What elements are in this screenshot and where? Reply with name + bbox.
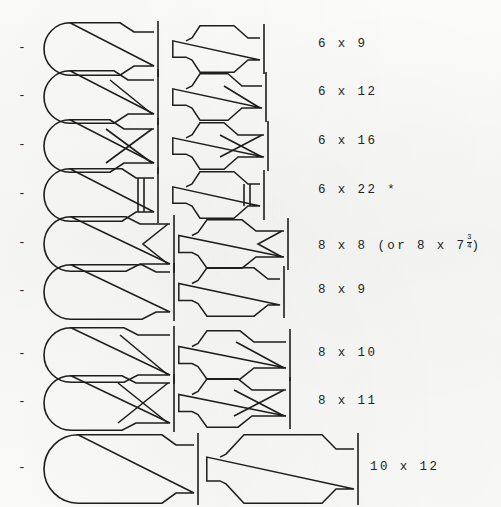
blade-outline — [44, 71, 154, 123]
row-bullet: - — [18, 236, 26, 249]
size-label: 6 x 16 — [318, 134, 377, 148]
large-profile-svg — [44, 432, 204, 506]
row-bullet: - — [18, 347, 26, 360]
small-profile-svg — [172, 120, 274, 172]
size-label: 6 x 22 * — [318, 183, 397, 197]
blade-outline — [173, 26, 260, 72]
row-bullet: - — [18, 395, 26, 408]
large-profile-diagram — [44, 262, 180, 322]
row-bullet: - — [18, 138, 26, 151]
size-label-suffix: ) — [472, 239, 482, 253]
size-label: 10 x 12 — [370, 460, 439, 474]
row-bullet: - — [18, 187, 26, 200]
blade-marking-diagonal — [236, 342, 284, 368]
row-bullet: - — [18, 89, 26, 102]
large-profile-svg — [44, 373, 180, 433]
row-bullet: - — [18, 284, 26, 297]
small-profile-svg — [178, 265, 290, 319]
spec-row: - — [0, 166, 501, 220]
large-profile-diagram — [44, 373, 180, 433]
size-label: 8 x 10 — [318, 346, 377, 360]
blade-outline — [207, 435, 354, 503]
blade-outline — [44, 435, 194, 503]
size-label: 8 x 11 — [318, 394, 377, 408]
blade-outline — [179, 268, 280, 316]
spec-row: - — [0, 68, 501, 122]
small-profile-svg — [172, 71, 272, 123]
size-label: 6 x 12 — [318, 85, 377, 99]
small-profile-diagram — [178, 265, 290, 319]
large-profile-diagram — [44, 432, 204, 506]
size-label-prefix: 8 x 8 (or 8 x 7 — [318, 239, 467, 253]
fraction-denominator: 4 — [467, 242, 472, 251]
large-profile-svg — [44, 262, 180, 322]
fraction-numerator: 3 — [467, 234, 472, 242]
spec-row: - — [0, 20, 501, 74]
spec-row-list: --------- — [0, 0, 501, 507]
blade-outline — [179, 331, 286, 379]
spec-row: - — [0, 262, 501, 318]
size-label: 8 x 8 (or 8 x 734) — [318, 235, 481, 253]
blade-marking-chevron — [143, 224, 168, 264]
spec-row: - — [0, 117, 501, 171]
size-label: 6 x 9 — [318, 37, 368, 51]
blade-outline — [44, 265, 170, 319]
small-profile-diagram — [172, 120, 274, 172]
blade-outline — [44, 120, 154, 172]
blade-outline — [173, 172, 260, 218]
blade-outline — [179, 379, 286, 427]
small-profile-svg — [206, 432, 364, 506]
small-profile-diagram — [178, 376, 296, 430]
small-profile-diagram — [172, 71, 272, 123]
row-bullet: - — [18, 41, 26, 54]
small-profile-diagram — [206, 432, 364, 506]
blade-outline — [44, 376, 170, 430]
small-profile-svg — [178, 376, 296, 430]
blade-marking-diagonal — [110, 80, 152, 114]
spec-row: - — [0, 373, 501, 429]
row-bullet: - — [18, 461, 26, 474]
blade-outline — [179, 220, 284, 268]
fraction-glyph: 34 — [467, 234, 472, 250]
blade-outline — [173, 123, 264, 169]
blade-marking-diagonal — [224, 86, 260, 108]
blade-outline — [173, 74, 262, 120]
size-label: 8 x 9 — [318, 283, 368, 297]
